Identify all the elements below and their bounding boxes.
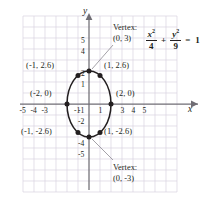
equation-plus-sign: + xyxy=(161,35,166,45)
x-tick--4: -4 xyxy=(31,106,37,115)
y-tick--4: -4 xyxy=(78,139,84,148)
point-left-covertex xyxy=(65,102,70,107)
callout-vertex-top-coords: (0, 3) xyxy=(113,34,137,45)
x-tick-5: 5 xyxy=(143,106,147,115)
y-tick--1: -1 xyxy=(78,106,84,115)
equation-denominator-4: 4 xyxy=(147,41,156,51)
equation-denominator-9: 9 xyxy=(171,41,180,51)
label-point-right-covertex: (2, 0) xyxy=(116,90,135,99)
label-point-left-lower: (-1, -2.6) xyxy=(21,128,52,137)
point-left-upper xyxy=(76,73,81,78)
y-tick--5: -5 xyxy=(78,150,84,159)
x-tick-4: 4 xyxy=(132,106,136,115)
point-right-upper xyxy=(98,73,103,78)
equation-fraction-y: y2 9 xyxy=(170,28,181,51)
point-right-covertex xyxy=(109,102,114,107)
callout-vertex-top: Vertex: (0, 3) xyxy=(113,23,137,44)
leader-vertex-bottom xyxy=(92,139,113,160)
equation-numerator-x: x2 xyxy=(146,28,158,39)
label-point-right-lower: (1, -2.6) xyxy=(104,128,132,137)
y-tick-4: 4 xyxy=(81,47,85,56)
point-left-lower xyxy=(76,130,81,135)
x-tick-3: 3 xyxy=(121,106,125,115)
y-tick-5: 5 xyxy=(81,36,85,45)
equation-fraction-x: x2 4 xyxy=(146,28,158,51)
callout-vertex-top-title: Vertex: xyxy=(113,23,137,34)
callout-vertex-bottom-title: Vertex: xyxy=(113,163,137,174)
equation-right-hand-side: 1 xyxy=(195,35,200,45)
callout-vertex-bottom: Vertex: (0, -3) xyxy=(113,163,137,184)
x-tick-1: 1 xyxy=(99,106,103,115)
y-tick-2: 2 xyxy=(81,69,85,78)
callout-vertex-bottom-coords: (0, -3) xyxy=(113,174,137,185)
y-tick-1: 1 xyxy=(81,80,85,89)
equation-equals-sign: = xyxy=(185,35,190,45)
point-right-lower xyxy=(98,130,103,135)
equation-numerator-y: y2 xyxy=(170,28,181,39)
x-tick--5: -5 xyxy=(20,106,26,115)
y-axis-label: y xyxy=(83,6,87,16)
x-axis-label: x xyxy=(188,104,192,114)
label-point-left-upper: (-1, 2.6) xyxy=(26,62,54,71)
x-tick--3: -3 xyxy=(42,106,48,115)
label-point-right-upper: (1, 2.6) xyxy=(104,62,129,71)
label-point-left-covertex: (-2, 0) xyxy=(30,90,52,99)
ellipse-equation: x2 4 + y2 9 = 1 xyxy=(144,28,202,51)
point-vertex-top xyxy=(87,69,92,74)
ellipse-graph-figure: y x -5 -4 -3 -1 1 3 4 5 5 4 2 1 -1 -2 -4… xyxy=(0,0,220,201)
point-vertex-bottom xyxy=(87,135,92,140)
y-tick--2: -2 xyxy=(78,117,84,126)
